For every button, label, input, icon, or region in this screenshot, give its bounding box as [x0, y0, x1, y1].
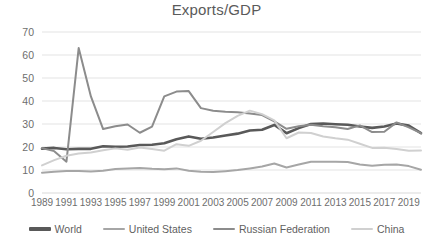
y-axis-tick-label: 20 [22, 141, 34, 153]
y-axis-tick-labels: 010203040506070 [22, 26, 34, 199]
x-axis-tick-label: 2013 [324, 197, 347, 208]
legend-item-united-states[interactable]: United States [103, 223, 192, 235]
x-axis-tick-label: 2017 [373, 197, 396, 208]
x-axis-tick-label: 2005 [226, 197, 249, 208]
y-axis-tick-label: 70 [22, 26, 34, 38]
x-axis-tick-label: 1995 [104, 197, 127, 208]
x-axis-tick-label: 1993 [80, 197, 103, 208]
chart-legend: WorldUnited StatesRussian FederationChin… [0, 223, 433, 235]
legend-swatch-icon [103, 228, 125, 231]
legend-label: Russian Federation [239, 223, 330, 235]
series-line-united-states [42, 162, 421, 173]
x-axis-tick-label: 2009 [275, 197, 298, 208]
x-axis-tick-label: 1997 [129, 197, 152, 208]
y-axis-tick-label: 10 [22, 164, 34, 176]
x-axis-tick-label: 2003 [202, 197, 225, 208]
y-axis-tick-label: 30 [22, 118, 34, 130]
series-lines [42, 48, 421, 173]
legend-swatch-icon [29, 227, 51, 230]
x-axis-tick-labels: 1989199119931995199719992001200320052007… [31, 197, 420, 208]
x-axis-tick-label: 2007 [251, 197, 274, 208]
y-axis-tick-label: 50 [22, 72, 34, 84]
x-axis-tick-label: 1999 [153, 197, 176, 208]
x-axis-tick-label: 2011 [300, 197, 322, 208]
legend-label: China [377, 223, 404, 235]
legend-item-world[interactable]: World [29, 223, 82, 235]
x-axis-tick-label: 2019 [398, 197, 421, 208]
legend-item-russian-federation[interactable]: Russian Federation [213, 223, 330, 235]
x-axis-tick-label: 2015 [349, 197, 372, 208]
x-axis-tick-label: 1991 [55, 197, 78, 208]
x-axis-tick-label: 1989 [31, 197, 54, 208]
chart-container: Exports/GDP 010203040506070 198919911993… [0, 0, 433, 238]
legend-label: World [55, 223, 82, 235]
legend-swatch-icon [351, 228, 373, 231]
legend-swatch-icon [213, 228, 235, 231]
y-axis-tick-label: 60 [22, 49, 34, 61]
chart-plot-area: 010203040506070 198919911993199519971999… [0, 0, 433, 238]
legend-label: United States [129, 223, 192, 235]
x-axis-tick-label: 2001 [178, 197, 201, 208]
legend-item-china[interactable]: China [351, 223, 404, 235]
y-axis-tick-label: 40 [22, 95, 34, 107]
